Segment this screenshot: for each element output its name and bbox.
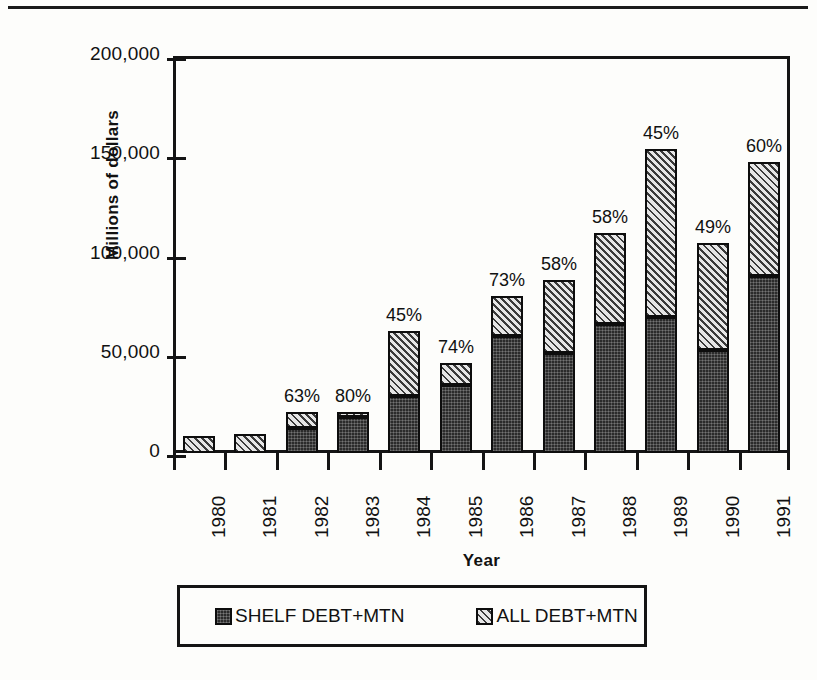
x-axis-tick bbox=[430, 453, 433, 470]
x-axis-tick bbox=[787, 453, 790, 470]
x-axis-tick bbox=[276, 453, 279, 470]
legend-swatch-all-debt-icon bbox=[476, 608, 493, 625]
y-axis-tick-label: 200,000 bbox=[8, 43, 160, 65]
bar-segment-shelf-debt bbox=[697, 350, 729, 453]
bar-percent-label-1987: 58% bbox=[524, 254, 594, 275]
chart-legend: SHELF DEBT+MTN ALL DEBT+MTN bbox=[177, 585, 647, 647]
x-axis-tick bbox=[584, 453, 587, 470]
x-axis-label-1987: 1987 bbox=[568, 460, 590, 538]
bar-segment-all-debt bbox=[183, 436, 215, 453]
bar-percent-label-1990: 49% bbox=[678, 217, 748, 238]
bar-1990 bbox=[697, 243, 729, 453]
x-axis-tick bbox=[327, 453, 330, 470]
bar-segment-all-debt bbox=[697, 243, 729, 350]
bar-1988 bbox=[594, 233, 626, 453]
x-axis-tick bbox=[687, 453, 690, 470]
legend-swatch-shelf-debt-icon bbox=[215, 608, 232, 625]
bar-segment-all-debt bbox=[286, 412, 318, 428]
bar-segment-shelf-debt bbox=[645, 317, 677, 453]
bar-1985 bbox=[440, 363, 472, 453]
x-axis-label-1988: 1988 bbox=[619, 460, 641, 538]
bar-1989 bbox=[645, 149, 677, 453]
x-axis-label-1989: 1989 bbox=[670, 460, 692, 538]
x-axis-label-1991: 1991 bbox=[773, 460, 795, 538]
x-axis-tick bbox=[482, 453, 485, 470]
x-axis-tick bbox=[173, 453, 176, 470]
bar-1991 bbox=[748, 162, 780, 453]
legend-label-shelf-debt: SHELF DEBT+MTN bbox=[235, 605, 404, 627]
x-axis-label-1981: 1981 bbox=[259, 460, 281, 538]
y-axis-tick bbox=[167, 58, 186, 61]
y-axis-tick-label: 0 bbox=[8, 440, 160, 462]
bar-1983 bbox=[337, 412, 369, 453]
legend-label-all-debt: ALL DEBT+MTN bbox=[496, 605, 637, 627]
x-axis-tick bbox=[533, 453, 536, 470]
bar-segment-shelf-debt bbox=[748, 276, 780, 453]
y-axis-tick bbox=[167, 157, 186, 160]
bar-chart: Millions of dollars 050,000100,000150,00… bbox=[0, 0, 817, 680]
x-axis-tick bbox=[636, 453, 639, 470]
bar-1981 bbox=[234, 434, 266, 453]
bar-segment-shelf-debt bbox=[337, 417, 369, 453]
y-axis-tick-label: 50,000 bbox=[8, 341, 160, 363]
x-axis-title: Year bbox=[173, 551, 790, 571]
bar-percent-label-1988: 58% bbox=[575, 207, 645, 228]
x-axis-label-1982: 1982 bbox=[311, 460, 333, 538]
x-axis-label-1986: 1986 bbox=[516, 460, 538, 538]
bar-segment-all-debt bbox=[594, 233, 626, 324]
bar-1980 bbox=[183, 436, 215, 453]
bar-percent-label-1984: 45% bbox=[369, 305, 439, 326]
x-axis-tick bbox=[739, 453, 742, 470]
x-axis-label-1980: 1980 bbox=[208, 460, 230, 538]
y-axis-tick bbox=[167, 356, 186, 359]
bar-segment-all-debt bbox=[388, 331, 420, 397]
bar-segment-all-debt bbox=[234, 434, 266, 453]
legend-item-shelf-debt: SHELF DEBT+MTN bbox=[215, 605, 404, 627]
y-axis-tick bbox=[167, 455, 186, 458]
y-axis-tick-label: 100,000 bbox=[8, 242, 160, 264]
bar-segment-shelf-debt bbox=[440, 385, 472, 452]
bar-segment-all-debt bbox=[645, 149, 677, 317]
bar-1982 bbox=[286, 412, 318, 453]
bar-segment-all-debt bbox=[440, 363, 472, 386]
y-axis-tick-labels: 050,000100,000150,000200,000 bbox=[0, 0, 160, 680]
y-axis-tick bbox=[167, 257, 186, 260]
bar-segment-shelf-debt bbox=[543, 353, 575, 453]
bar-segment-all-debt bbox=[543, 280, 575, 352]
bar-segment-all-debt bbox=[491, 296, 523, 336]
y-axis-tick-label: 150,000 bbox=[8, 142, 160, 164]
bar-1986 bbox=[491, 296, 523, 453]
x-axis-label-1983: 1983 bbox=[362, 460, 384, 538]
bar-percent-label-1989: 45% bbox=[626, 123, 696, 144]
bar-segment-shelf-debt bbox=[388, 396, 420, 453]
x-axis-tick bbox=[379, 453, 382, 470]
x-axis-label-1985: 1985 bbox=[465, 460, 487, 538]
legend-item-all-debt: ALL DEBT+MTN bbox=[476, 605, 637, 627]
bar-1987 bbox=[543, 280, 575, 453]
bar-segment-shelf-debt bbox=[594, 324, 626, 453]
bar-segment-all-debt bbox=[748, 162, 780, 276]
bar-percent-label-1983: 80% bbox=[318, 386, 388, 407]
bar-segment-shelf-debt bbox=[286, 428, 318, 453]
bar-percent-label-1985: 74% bbox=[421, 337, 491, 358]
bar-percent-label-1991: 60% bbox=[729, 136, 799, 157]
x-axis-tick bbox=[224, 453, 227, 470]
x-axis-label-1990: 1990 bbox=[722, 460, 744, 538]
x-axis-label-1984: 1984 bbox=[413, 460, 435, 538]
bar-1984 bbox=[388, 331, 420, 453]
bar-segment-shelf-debt bbox=[491, 336, 523, 453]
